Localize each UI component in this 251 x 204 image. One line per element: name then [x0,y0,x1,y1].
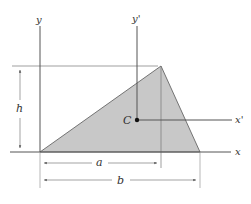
triangle-shape [40,66,200,152]
height-label: h [16,102,23,115]
centroid-label: C [123,114,132,127]
b-dimension-label: b [117,174,124,187]
y-prime-axis-label: y' [131,13,140,24]
centroid-dot [135,118,139,122]
y-axis-label: y [35,14,42,25]
a-dimension-label: a [96,156,103,169]
triangle-diagram: y y' x' x C h a b [0,0,251,204]
x-prime-axis-label: x' [235,114,243,125]
x-axis-label: x [235,146,241,157]
